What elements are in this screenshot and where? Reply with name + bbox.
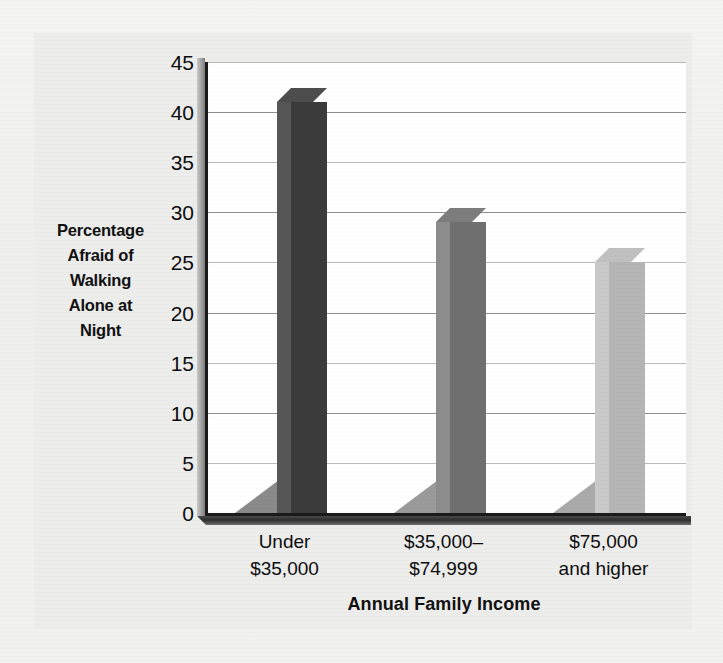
- bar-side-face: [436, 222, 450, 513]
- y-axis-tick-label: 45: [154, 52, 194, 73]
- y-axis-tick-label: 30: [154, 202, 194, 223]
- y-axis-tick-label: 20: [154, 303, 194, 324]
- x-axis-category-label: Under$35,000: [205, 528, 364, 582]
- y-axis-tick-label: 15: [154, 353, 194, 374]
- x-axis-category-label-line: $35,000: [205, 555, 364, 582]
- y-axis-spine-depth: [197, 58, 205, 516]
- gridline: [208, 62, 686, 63]
- y-axis-tick-label: 35: [154, 152, 194, 173]
- bar-side-face: [277, 102, 291, 513]
- x-axis-category-label-line: $35,000–: [364, 528, 523, 555]
- x-axis-category-label: $35,000–$74,999: [364, 528, 523, 582]
- bar: [277, 88, 327, 513]
- y-axis-tick-labels: 051015202530354045: [148, 0, 194, 663]
- x-axis-category-label-line: $74,999: [364, 555, 523, 582]
- x-axis-floor-depth: [197, 516, 691, 525]
- bar-front-face: [609, 262, 645, 513]
- bar: [436, 208, 486, 513]
- bar-side-face: [595, 262, 609, 513]
- bar-top-face: [595, 248, 645, 262]
- y-axis-tick-label: 25: [154, 252, 194, 273]
- bar-top-face: [436, 208, 486, 222]
- x-axis-category-labels: Under$35,000$35,000–$74,999$75,000and hi…: [205, 528, 683, 590]
- bar-front-face: [291, 102, 327, 513]
- y-axis-tick-label: 5: [154, 453, 194, 474]
- bar-top-face: [277, 88, 327, 102]
- x-axis-category-label-line: $75,000: [524, 528, 683, 555]
- y-axis-tick-label: 0: [154, 503, 194, 524]
- y-axis-tick-label: 40: [154, 102, 194, 123]
- x-axis-title: Annual Family Income: [205, 594, 683, 615]
- x-axis-category-label: $75,000and higher: [524, 528, 683, 582]
- x-axis-category-label-line: and higher: [524, 555, 683, 582]
- plot-area: [205, 62, 686, 516]
- bar-front-face: [450, 222, 486, 513]
- y-axis-tick-label: 10: [154, 403, 194, 424]
- chart-page: PercentageAfraid ofWalkingAlone atNight …: [0, 0, 723, 663]
- bar: [595, 248, 645, 513]
- x-axis-category-label-line: Under: [205, 528, 364, 555]
